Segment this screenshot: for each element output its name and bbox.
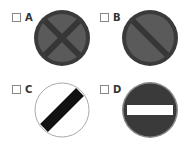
checkbox-d[interactable] — [100, 85, 109, 94]
option-label-a: A — [25, 12, 33, 23]
no-waiting-icon — [121, 9, 179, 67]
option-label-c: C — [25, 84, 32, 95]
checkbox-c[interactable] — [12, 85, 21, 94]
checkbox-a[interactable] — [12, 13, 21, 22]
no-entry-icon — [121, 81, 179, 139]
national-speed-limit-icon — [33, 81, 91, 139]
no-stopping-icon — [33, 9, 91, 67]
checkbox-b[interactable] — [100, 13, 109, 22]
option-label-b: B — [113, 12, 121, 23]
